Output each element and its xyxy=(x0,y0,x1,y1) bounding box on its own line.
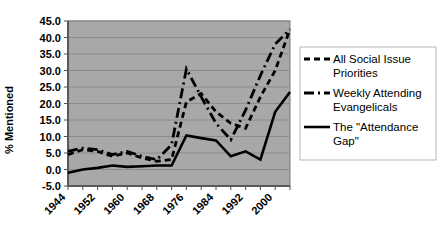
y-tick-label: 10.0 xyxy=(40,131,61,143)
line-chart: 45.040.035.030.025.020.015.010.05.00.0-5… xyxy=(0,0,441,238)
y-tick-label: -5.0 xyxy=(42,180,61,192)
y-tick-label: 5.0 xyxy=(46,147,61,159)
legend-label-1: Evangelicals xyxy=(333,101,398,113)
legend-label-1: Weekly Attending xyxy=(333,87,422,99)
legend-label-0: Priorities xyxy=(333,67,378,79)
chart-container: 45.040.035.030.025.020.015.010.05.00.0-5… xyxy=(0,0,441,238)
y-axis-title: % Mentioned xyxy=(3,86,15,154)
legend-label-2: Gap" xyxy=(333,135,359,147)
legend-label-2: The "Attendance xyxy=(333,121,418,133)
y-tick-label: 45.0 xyxy=(40,15,61,27)
legend-label-0: All Social Issue xyxy=(333,53,411,65)
y-tick-label: 35.0 xyxy=(40,48,61,60)
y-tick-label: 30.0 xyxy=(40,65,61,77)
y-tick-label: 20.0 xyxy=(40,98,61,110)
chart-legend: All Social IssuePrioritiesWeekly Attendi… xyxy=(300,47,436,160)
y-tick-label: 40.0 xyxy=(40,32,61,44)
y-tick-label: 25.0 xyxy=(40,81,61,93)
y-tick-label: 15.0 xyxy=(40,114,61,126)
y-tick-label: 0.0 xyxy=(46,164,61,176)
